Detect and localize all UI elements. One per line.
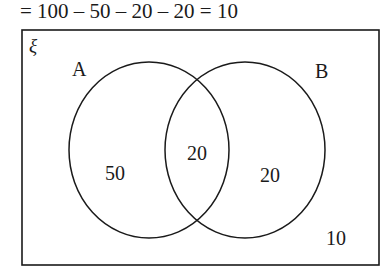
set-b-label: B	[315, 60, 328, 82]
b-only-value: 20	[260, 164, 280, 186]
intersection-value: 20	[187, 142, 207, 164]
venn-diagram: ξ A B 50 20 20 10	[0, 0, 382, 272]
set-a-label: A	[72, 58, 87, 80]
outside-value: 10	[326, 227, 346, 249]
universal-set-symbol: ξ	[29, 35, 38, 56]
a-only-value: 50	[105, 162, 125, 184]
